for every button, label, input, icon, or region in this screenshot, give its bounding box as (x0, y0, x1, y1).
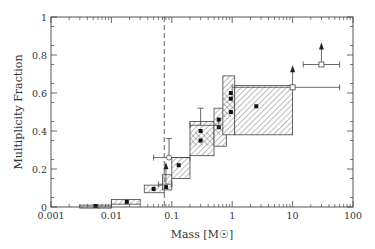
data-point-marker (229, 97, 233, 101)
y-tick-label: 0.2 (32, 164, 47, 175)
open-square-marker (319, 62, 324, 67)
arrow-head-icon (319, 43, 324, 50)
y-tick-label: 0.8 (32, 50, 47, 61)
plot-area (80, 17, 340, 208)
data-point-marker (217, 118, 221, 122)
data-point-marker (199, 139, 203, 143)
x-tick-label: 0.1 (164, 210, 179, 221)
x-axis-label: Mass [M☉] (171, 228, 233, 241)
y-tick-label: 0.4 (32, 126, 47, 137)
hatch-fill (235, 85, 293, 134)
y-tick-label: 0.6 (32, 88, 47, 99)
y-tick-label: 0 (41, 202, 47, 213)
data-point-marker (152, 187, 156, 191)
open-circle-marker (167, 155, 172, 160)
plot-frame (51, 17, 353, 207)
x-tick-label: 0.01 (101, 210, 122, 221)
x-tick-label: 10 (287, 210, 299, 221)
axes: 0.0010.010.111010000.20.40.60.81 (32, 12, 362, 222)
multiplicity-chart: 0.0010.010.111010000.20.40.60.81 Mass [M… (0, 0, 375, 249)
hatch-fill (172, 158, 190, 179)
open-square-marker (290, 85, 295, 90)
crosshatch-fill (223, 94, 235, 118)
data-point-marker (254, 104, 258, 108)
y-tick-label: 1 (41, 12, 47, 23)
data-point-marker (125, 200, 129, 204)
x-tick-label: 100 (344, 210, 362, 221)
data-point-marker (177, 163, 181, 167)
y-axis-label: Multiplicity Fraction (12, 55, 25, 170)
x-tick-label: 1 (229, 210, 235, 221)
arrow-head-icon (290, 65, 295, 72)
data-point-marker (229, 91, 233, 95)
data-point-marker (229, 110, 233, 114)
data-point-marker (199, 129, 203, 133)
